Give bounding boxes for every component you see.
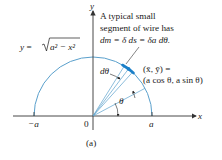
annotation-line-2: segment of wire has [100,23,174,33]
dtheta-label: dθ [100,66,110,76]
x-axis-label: x [197,111,202,121]
tick-label-neg-a: −a [28,119,39,129]
curve-equation-lhs: y = [19,42,32,52]
tick-label-pos-a: a [149,119,154,129]
annotation-line-1: A typical small [100,11,156,21]
wire-semicircle-figure: y x A typical small segment of wire has … [0,0,222,160]
annotation-leader [126,47,139,64]
theta-arc [115,103,118,116]
theta-label: θ [119,96,124,106]
curve-equation-radicand: a² − x² [50,42,75,52]
figure-caption: (a) [86,138,96,148]
centroid-label-line-1: (x̄, ȳ) = [143,64,170,74]
tick-label-origin: 0 [84,119,89,129]
centroid-label-line-2: (a cos θ, a sin θ) [143,75,203,85]
y-axis-label: y [89,1,94,11]
annotation-line-3: dm = δ ds = δa dθ. [100,35,170,45]
radial-line-lower [93,72,133,116]
centroid-dot [127,67,131,71]
radial-line-centroid [93,69,129,116]
